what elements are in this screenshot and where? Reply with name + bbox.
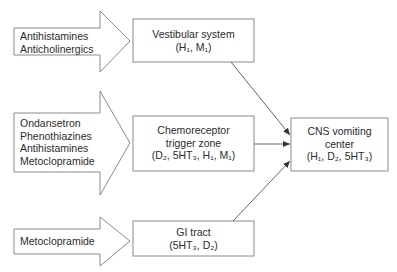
drug-name: Antihistamines xyxy=(20,142,95,155)
drug-name: Phenothiazines xyxy=(20,130,95,143)
drug-name: Ondansetron xyxy=(20,117,95,130)
arrow-label-gi-drugs: Metoclopramide xyxy=(20,235,95,248)
box-receptors: (H₁, M₁) xyxy=(133,41,254,54)
arrow-label-vestibular-drugs: Antihistamines Anticholinergics xyxy=(20,30,94,55)
box-label-gi: GI tract (5HT₃, D₂) xyxy=(133,226,254,251)
box-receptors: (H₁, D₂, 5HT₃) xyxy=(291,150,388,163)
box-title: Vestibular system xyxy=(133,28,254,41)
box-label-cns: CNS vomiting center (H₁, D₂, 5HT₃) xyxy=(291,125,388,163)
box-receptors: (D₂, 5HT₃, H₁, M₁) xyxy=(133,149,254,162)
box-title-line1: Chemoreceptor xyxy=(133,124,254,137)
arrow-label-ctz-drugs: Ondansetron Phenothiazines Antihistamine… xyxy=(20,117,95,167)
drug-name: Antihistamines xyxy=(20,30,94,43)
box-title-line1: CNS vomiting xyxy=(291,125,388,138)
box-label-ctz: Chemoreceptor trigger zone (D₂, 5HT₃, H₁… xyxy=(133,124,254,162)
box-title-line2: center xyxy=(291,138,388,151)
box-title: GI tract xyxy=(133,226,254,239)
drug-name: Anticholinergics xyxy=(20,43,94,56)
box-title-line2: trigger zone xyxy=(133,137,254,150)
box-receptors: (5HT₃, D₂) xyxy=(133,239,254,252)
box-label-vestibular: Vestibular system (H₁, M₁) xyxy=(133,28,254,53)
drug-name: Metoclopramide xyxy=(20,155,95,168)
drug-name: Metoclopramide xyxy=(20,235,95,248)
